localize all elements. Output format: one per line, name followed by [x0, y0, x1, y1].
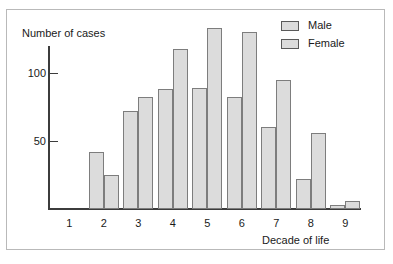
x-tick-label-2: 2: [94, 218, 114, 229]
y-tick-label-50: 50: [6, 136, 46, 147]
bar-male-decade-6: [227, 97, 242, 209]
y-tick-100: [50, 73, 58, 74]
bar-male-decade-9: [330, 205, 345, 209]
bar-male-decade-5: [192, 88, 207, 209]
y-axis-line: [48, 46, 50, 210]
bar-female-decade-8: [311, 133, 326, 209]
y-tick-label-100: 100: [6, 68, 46, 79]
x-tick-label-7: 7: [266, 218, 286, 229]
bar-male-decade-7: [261, 127, 276, 209]
legend-swatch-female: [281, 39, 299, 49]
x-tick-label-5: 5: [197, 218, 217, 229]
bar-chart-plot: Number of cases 10050 123456789 Decade o…: [0, 0, 393, 264]
y-tick-50: [50, 141, 58, 142]
bar-female-decade-3: [138, 97, 153, 209]
legend-item-female: Female: [281, 36, 345, 51]
bar-female-decade-2: [104, 175, 119, 209]
x-tick-label-6: 6: [232, 218, 252, 229]
figure: Number of cases 10050 123456789 Decade o…: [0, 0, 393, 264]
legend-label-male: Male: [308, 20, 332, 31]
x-axis-title: Decade of life: [262, 234, 329, 246]
bar-female-decade-4: [173, 49, 188, 209]
bar-female-decade-7: [276, 80, 291, 209]
legend-swatch-male: [281, 21, 299, 31]
legend-label-female: Female: [308, 38, 345, 49]
x-tick-label-8: 8: [301, 218, 321, 229]
chart-legend: Male Female: [281, 18, 345, 54]
bar-female-decade-5: [207, 28, 222, 209]
bar-female-decade-9: [345, 201, 360, 209]
x-tick-label-4: 4: [163, 218, 183, 229]
bar-male-decade-3: [123, 111, 138, 209]
bar-female-decade-6: [242, 32, 257, 209]
x-tick-label-9: 9: [335, 218, 355, 229]
bar-male-decade-4: [158, 89, 173, 209]
x-tick-label-3: 3: [128, 218, 148, 229]
y-axis-title: Number of cases: [22, 27, 105, 39]
legend-item-male: Male: [281, 18, 345, 33]
bar-male-decade-8: [296, 179, 311, 209]
x-tick-label-1: 1: [59, 218, 79, 229]
bar-male-decade-2: [89, 152, 104, 209]
